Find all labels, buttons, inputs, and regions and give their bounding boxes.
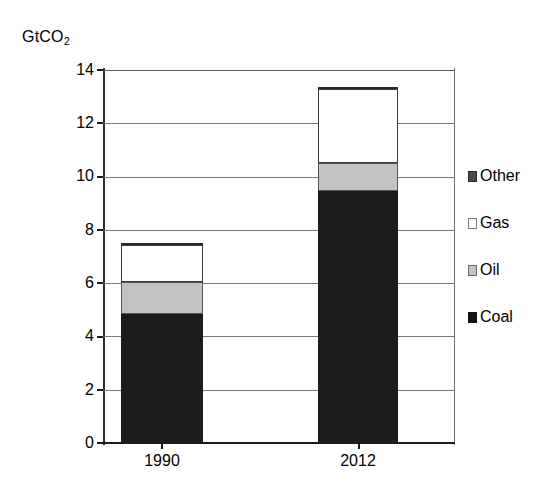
y-tick-label-0: 0 xyxy=(85,435,94,451)
y-axis-line xyxy=(103,68,105,445)
y-tick-label-14: 14 xyxy=(76,62,94,78)
legend-item-gas[interactable]: Gas xyxy=(468,215,509,231)
x-axis-label-2012: 2012 xyxy=(318,452,398,470)
y-axis-title-main: GtCO xyxy=(22,28,64,45)
legend-swatch-other-icon xyxy=(468,171,477,182)
legend-swatch-gas-icon xyxy=(468,218,477,229)
legend-item-other[interactable]: Other xyxy=(468,168,520,184)
x-tick-mark-1990 xyxy=(161,443,163,449)
bar-1990-segment-gas[interactable] xyxy=(121,245,203,282)
bar-2012-segment-coal[interactable] xyxy=(318,191,398,443)
y-axis-title: GtCO2 xyxy=(22,28,70,46)
y-tick-label-2: 2 xyxy=(85,382,94,398)
y-axis-title-subscript: 2 xyxy=(64,35,70,47)
y-tick-label-12: 12 xyxy=(76,115,94,131)
y-tick-label-10: 10 xyxy=(76,168,94,184)
legend-label-oil: Oil xyxy=(480,262,500,278)
gridline-12 xyxy=(103,123,455,124)
legend-swatch-oil-icon xyxy=(468,265,477,276)
plot-right-border xyxy=(454,68,455,445)
gridline-10 xyxy=(103,177,455,178)
legend-item-coal[interactable]: Coal xyxy=(468,309,513,325)
x-axis-label-1990: 1990 xyxy=(122,452,202,470)
y-tick-label-6: 6 xyxy=(85,275,94,291)
bar-2012-segment-oil[interactable] xyxy=(318,163,398,191)
stacked-bar-chart: GtCO2 14 12 10 8 6 4 2 0 xyxy=(0,0,556,496)
bar-2012-segment-other[interactable] xyxy=(318,87,398,89)
bar-1990[interactable] xyxy=(121,243,203,443)
legend-swatch-coal-icon xyxy=(468,312,477,323)
x-tick-mark-2012 xyxy=(358,443,360,449)
y-tick-label-4: 4 xyxy=(85,328,94,344)
bar-1990-segment-other[interactable] xyxy=(121,243,203,245)
legend-label-gas: Gas xyxy=(480,215,509,231)
legend-item-oil[interactable]: Oil xyxy=(468,262,500,278)
bar-1990-segment-coal[interactable] xyxy=(121,314,203,443)
gridline-14 xyxy=(103,70,455,71)
bar-1990-segment-oil[interactable] xyxy=(121,282,203,314)
gridline-8 xyxy=(103,230,455,231)
legend-label-other: Other xyxy=(480,168,520,184)
y-tick-label-8: 8 xyxy=(85,222,94,238)
legend-label-coal: Coal xyxy=(480,309,513,325)
bar-2012[interactable] xyxy=(318,87,398,443)
bar-2012-segment-gas[interactable] xyxy=(318,89,398,163)
plot-area xyxy=(103,70,455,443)
